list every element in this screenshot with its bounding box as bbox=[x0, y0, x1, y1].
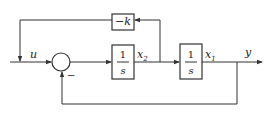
x1-label: x1 bbox=[205, 48, 216, 63]
gain-block: −k bbox=[112, 14, 134, 30]
integrator-2-denominator: s bbox=[188, 65, 193, 76]
summing-junction bbox=[52, 53, 70, 71]
integrator-2-numerator: 1 bbox=[188, 49, 194, 60]
minus-sign: − bbox=[67, 70, 75, 81]
integrator-1-denominator: s bbox=[120, 65, 125, 76]
output-feedback-line bbox=[62, 62, 237, 104]
integrator-block-1: 1 s bbox=[112, 45, 134, 79]
output-label-y: y bbox=[244, 46, 252, 59]
x2-label: x2 bbox=[137, 48, 148, 63]
integrator-1-numerator: 1 bbox=[120, 49, 126, 60]
gain-label: −k bbox=[115, 15, 131, 28]
block-diagram: u − 1 s x2 1 s x1 y −k bbox=[0, 0, 269, 120]
input-label-u: u bbox=[30, 48, 37, 61]
integrator-block-2: 1 s bbox=[180, 44, 202, 79]
